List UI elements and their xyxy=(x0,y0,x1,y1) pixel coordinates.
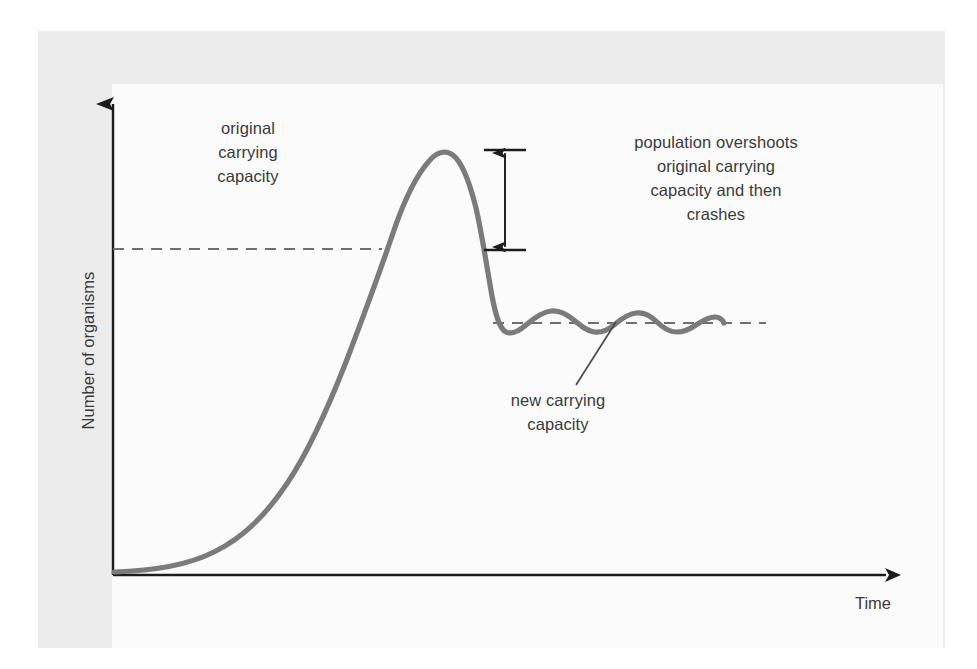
y-axis-label: Number of organisms xyxy=(79,241,98,461)
x-axis-label: Time xyxy=(838,594,908,613)
chart-graphics xyxy=(0,0,977,669)
annotation-original-carrying-capacity: original carrying capacity xyxy=(168,116,328,188)
annotation-overshoot-note: population overshoots original carrying … xyxy=(605,130,827,226)
figure-root: original carrying capacity population ov… xyxy=(0,0,977,669)
annotation-new-carrying-capacity: new carrying capacity xyxy=(478,388,638,436)
